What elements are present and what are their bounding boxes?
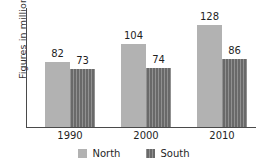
bar-south-2010: 86 [222,59,247,127]
x-axis-line [26,127,256,128]
legend-label-north: North [92,148,120,159]
bar-value-label: 128 [200,11,219,22]
bar-north-2000: 104 [121,44,146,127]
x-tick-2010: 2010 [209,130,234,141]
legend-swatch-south-icon [146,149,155,158]
chart-legend: North South [0,148,268,159]
plot-area: 82 73 104 74 128 [27,8,256,127]
bar-north-1990: 82 [45,62,70,127]
bar-value-label: 82 [51,48,64,59]
bar-value-label: 73 [76,55,89,66]
legend-item-north: North [78,148,120,159]
legend-item-south: South [146,148,189,159]
bar-value-label: 104 [124,30,143,41]
legend-label-south: South [160,148,189,159]
bar-value-label: 74 [152,54,165,65]
bar-value-label: 86 [228,45,241,56]
bar-chart: Figures in millions 82 73 104 74 [0,0,268,168]
x-tick-2000: 2000 [133,130,158,141]
bar-south-2000: 74 [146,68,171,127]
bar-south-1990: 73 [70,69,95,127]
legend-swatch-north-icon [78,149,87,158]
bar-north-2010: 128 [197,25,222,127]
x-axis-tick-labels: 1990 2000 2010 [27,130,256,146]
x-tick-1990: 1990 [57,130,82,141]
